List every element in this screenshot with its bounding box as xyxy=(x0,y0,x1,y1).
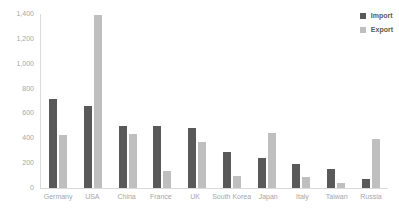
bar-export[interactable] xyxy=(163,171,171,188)
x-axis-tick: UK xyxy=(178,192,212,201)
bar-group xyxy=(215,14,250,188)
bar-import[interactable] xyxy=(188,128,196,188)
bar-export[interactable] xyxy=(59,135,67,188)
bar-import[interactable] xyxy=(258,158,266,188)
bar-import[interactable] xyxy=(292,164,300,188)
bar-group xyxy=(249,14,284,188)
bar-export[interactable] xyxy=(198,142,206,188)
bar-import[interactable] xyxy=(49,99,57,188)
bar-chart: 02004006008001,0001,2001,400 GermanyUSAC… xyxy=(0,0,399,216)
legend-swatch-icon xyxy=(360,27,366,33)
bar-export[interactable] xyxy=(337,183,345,188)
bar-export[interactable] xyxy=(94,15,102,188)
x-axis-line xyxy=(40,188,388,189)
x-axis-tick: Russia xyxy=(354,192,388,201)
bar-export[interactable] xyxy=(302,177,310,188)
bar-export[interactable] xyxy=(129,134,137,188)
bar-import[interactable] xyxy=(362,179,370,188)
x-axis-tick-labels: GermanyUSAChinaFranceUKSouth KoreaJapanI… xyxy=(41,192,388,201)
bar-group xyxy=(319,14,354,188)
bar-import[interactable] xyxy=(84,106,92,188)
bar-import[interactable] xyxy=(223,152,231,188)
bar-group xyxy=(145,14,180,188)
bar-group xyxy=(284,14,319,188)
x-axis-tick: Japan xyxy=(251,192,285,201)
y-axis-tick: 1,000 xyxy=(16,60,34,68)
y-axis-tick: 400 xyxy=(22,134,34,142)
chart-legend: ImportExport xyxy=(360,12,393,34)
legend-item-export[interactable]: Export xyxy=(360,26,393,34)
x-axis-tick: Italy xyxy=(285,192,319,201)
y-axis-tick-labels: 02004006008001,0001,2001,400 xyxy=(0,0,38,216)
x-axis-tick: USA xyxy=(75,192,109,201)
bar-export[interactable] xyxy=(372,139,380,188)
y-axis-tick: 800 xyxy=(22,85,34,93)
legend-swatch-icon xyxy=(360,13,366,19)
y-axis-tick: 200 xyxy=(22,159,34,167)
bar-import[interactable] xyxy=(119,126,127,188)
x-axis-tick: China xyxy=(109,192,143,201)
y-axis-tick: 1,400 xyxy=(16,10,34,18)
bar-import[interactable] xyxy=(153,126,161,188)
legend-label: Export xyxy=(371,26,393,34)
x-axis-tick: Taiwan xyxy=(320,192,354,201)
legend-label: Import xyxy=(371,12,393,20)
bar-group xyxy=(353,14,388,188)
bar-group xyxy=(41,14,76,188)
y-axis-tick: 1,200 xyxy=(16,35,34,43)
x-axis-tick: South Korea xyxy=(212,192,251,201)
bar-export[interactable] xyxy=(268,133,276,188)
bar-group xyxy=(76,14,111,188)
x-axis-tick: France xyxy=(144,192,178,201)
bar-import[interactable] xyxy=(327,169,335,188)
legend-item-import[interactable]: Import xyxy=(360,12,393,20)
bar-group xyxy=(180,14,215,188)
bar-export[interactable] xyxy=(233,176,241,188)
y-axis-tick: 0 xyxy=(30,184,34,192)
y-axis-tick: 600 xyxy=(22,109,34,117)
x-axis-tick: Germany xyxy=(41,192,75,201)
bars-layer xyxy=(41,14,388,188)
bar-group xyxy=(110,14,145,188)
